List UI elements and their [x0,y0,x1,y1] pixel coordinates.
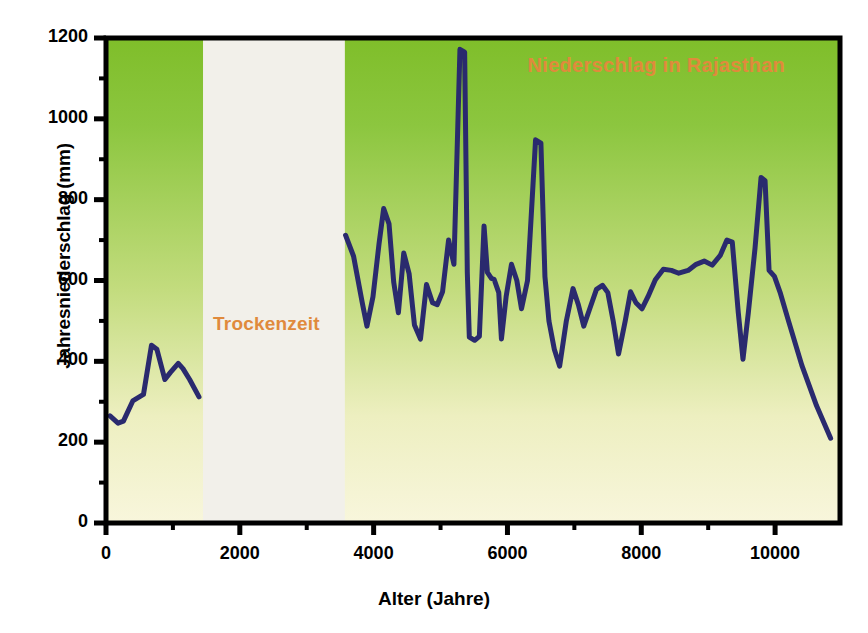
y-axis-title: Jahresniederschlag (mm) [53,106,75,406]
x-tick-label: 6000 [447,543,567,564]
dry-period-label: Trockenzeit [213,313,320,335]
y-tick-label: 200 [58,430,88,451]
y-tick-label: 1200 [48,26,88,47]
chart-title: Niederschlag in Rajasthan [528,54,786,77]
dry-period-band [203,38,345,523]
x-tick-label: 0 [46,543,166,564]
y-tick-label: 0 [78,511,88,532]
chart-figure: 020040060080010001200 020004000600080001… [0,0,868,633]
x-tick-label: 4000 [314,543,434,564]
x-tick-label: 10000 [715,543,835,564]
x-tick-label: 2000 [180,543,300,564]
x-axis-title: Alter (Jahre) [0,588,868,610]
precipitation-line-chart [0,0,868,633]
x-tick-label: 8000 [581,543,701,564]
